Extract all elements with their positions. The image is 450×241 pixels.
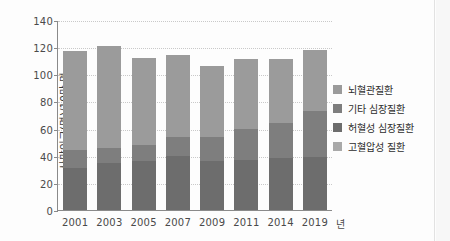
chart-legend: 뇌혈관질환기타 심장질환허혈성 심장질환고혈압성 질환 (333, 80, 414, 156)
legend-label: 기타 심장질환 (348, 101, 405, 116)
legend-item: 고혈압성 질환 (333, 137, 414, 155)
bar-segment (63, 51, 87, 150)
bar-segment (303, 50, 327, 111)
bar-segment (200, 137, 224, 161)
x-axis-tick-label: 2011 (233, 217, 259, 228)
bar-segment (303, 111, 327, 157)
bar-segment (269, 158, 293, 210)
legend-swatch-icon (333, 85, 342, 94)
bar-segment (97, 46, 121, 148)
bar-segment (234, 59, 258, 128)
y-axis-tick-label: 120 (33, 43, 53, 54)
x-axis-tick-label: 2009 (199, 217, 225, 228)
page-margin (436, 0, 450, 241)
legend-label: 허혈성 심장질환 (348, 120, 414, 135)
bar-segment (269, 123, 293, 158)
y-axis-tick-label: 0 (46, 206, 53, 217)
bar-column: 2014 (269, 21, 293, 210)
bar-column: 2009 (200, 21, 224, 210)
x-axis-tick-label: 2005 (131, 217, 157, 228)
bar-segment (166, 137, 190, 156)
bar-segment (132, 161, 156, 210)
bar-segment (234, 129, 258, 160)
x-axis-tick-label: 2007 (165, 217, 191, 228)
legend-label: 뇌혈관질환 (348, 82, 393, 97)
legend-item: 허혈성 심장질환 (333, 118, 414, 136)
y-axis-tick-label: 60 (40, 124, 53, 135)
bar-segment (63, 150, 87, 168)
bar-segment (97, 163, 121, 211)
y-axis-tick-mark (54, 211, 58, 212)
legend-label: 고혈압성 질환 (348, 139, 405, 154)
plot-area: 020406080100120140 200120032005200720092… (57, 21, 332, 211)
bar-segment (97, 148, 121, 163)
bar-column: 2019 (303, 21, 327, 210)
page-edge-line (434, 0, 435, 241)
legend-item: 기타 심장질환 (333, 99, 414, 117)
legend-swatch-icon (333, 142, 342, 151)
x-axis-unit: 년 (336, 216, 345, 231)
bar-segment (132, 145, 156, 161)
bar-segment (234, 160, 258, 210)
legend-swatch-icon (333, 123, 342, 132)
y-axis-tick-label: 80 (40, 97, 53, 108)
bar-column: 2005 (132, 21, 156, 210)
bar-segment (166, 55, 190, 136)
bar-column: 2001 (63, 21, 87, 210)
y-axis-tick-label: 20 (40, 178, 53, 189)
bar-segment (269, 59, 293, 123)
chart-page: 사망인구(명)/10만 명 020406080100120140 2001200… (0, 0, 450, 241)
bar-segment (200, 161, 224, 210)
bar-column: 2007 (166, 21, 190, 210)
bar-segment (132, 58, 156, 145)
legend-item: 뇌혈관질환 (333, 80, 414, 98)
x-axis-tick-label: 2003 (96, 217, 122, 228)
x-axis-tick-label: 2001 (62, 217, 88, 228)
bar-segment (303, 157, 327, 210)
bar-series-group: 20012003200520072009201120142019 (58, 21, 332, 210)
y-axis-tick-label: 140 (33, 16, 53, 27)
x-axis-tick-label: 2014 (268, 217, 294, 228)
x-axis-tick-label: 2019 (302, 217, 328, 228)
legend-swatch-icon (333, 104, 342, 113)
bar-segment (63, 168, 87, 210)
y-axis-tick-label: 100 (33, 70, 53, 81)
bar-segment (200, 66, 224, 137)
bar-column: 2011 (234, 21, 258, 210)
bar-column: 2003 (97, 21, 121, 210)
bar-segment (166, 156, 190, 210)
y-axis-tick-label: 40 (40, 151, 53, 162)
